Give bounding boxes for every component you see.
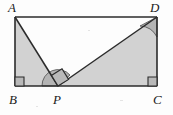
- scan-speck: [120, 100, 123, 101]
- vertex-label-A: A: [8, 1, 16, 14]
- right-angle-marker-at-C: [148, 77, 157, 86]
- vertex-label-P: P: [53, 93, 61, 106]
- vertex-label-C: C: [153, 93, 162, 106]
- right-angle-marker-at-B: [15, 77, 24, 86]
- scan-speck: [36, 106, 38, 107]
- geometry-figure: A B C D P: [0, 0, 173, 115]
- vertex-label-D: D: [150, 1, 159, 14]
- scan-speck: [88, 30, 90, 31]
- vertex-label-B: B: [9, 93, 17, 106]
- geometry-canvas: [0, 0, 173, 115]
